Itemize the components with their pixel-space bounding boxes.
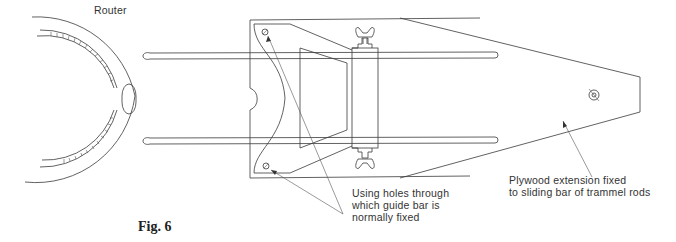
plywood-note-line2: to sliding bar of trammel rods [509,187,650,199]
plywood-extension [250,18,640,178]
sliding-bar [352,27,378,168]
router-clamp [122,84,136,114]
router-base [25,17,136,183]
router-label: Router [94,5,127,17]
trammel-rod-bottom [143,137,498,144]
plywood-note-line1: Plywood extension fixed [509,175,626,187]
wing-nut-top-icon [356,27,374,44]
holes-note-line3: normally fixed [352,212,420,224]
screw-hole-top [262,29,268,35]
pivot-icon [589,89,599,101]
wing-nut-bottom-icon [356,159,374,169]
guide-bar-plate [250,20,352,178]
guide-trapezoid [300,48,347,148]
trammel-diagram [0,0,676,242]
holes-note-line2: which guide bar is [352,200,440,212]
router-scale-ticks [51,32,113,163]
trammel-rod-top [143,52,498,59]
holes-note-line1: Using holes through [352,188,449,200]
figure-caption: Fig. 6 [138,219,171,235]
screw-hole-bottom [263,163,269,169]
